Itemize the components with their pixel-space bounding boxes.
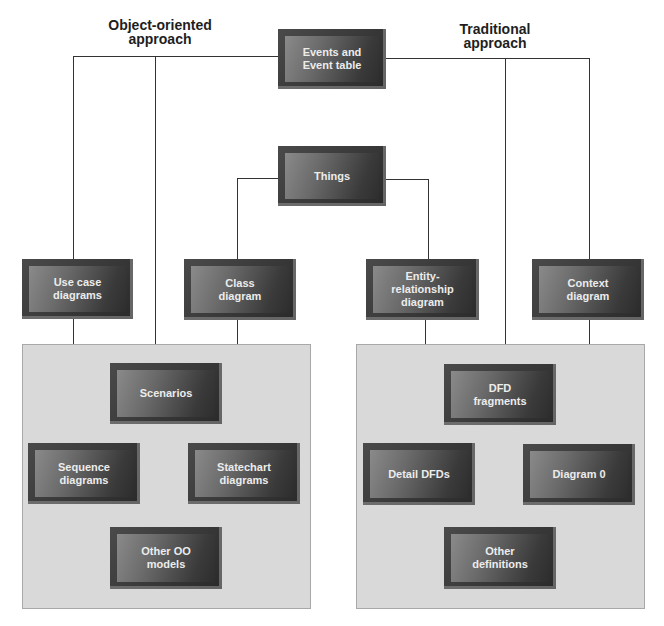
node-label: Other OO models: [117, 534, 215, 582]
node-diagram-0: Diagram 0: [523, 444, 635, 505]
node-label: Events and Event table: [285, 36, 379, 82]
heading-traditional: Traditional approach: [440, 22, 550, 50]
node-other-oo-models: Other OO models: [110, 527, 222, 589]
connector-class-to-panel: [237, 320, 238, 344]
node-other-definitions: Other definitions: [444, 527, 556, 589]
node-label: Scenarios: [117, 370, 215, 417]
node-label: Use case diagrams: [29, 266, 126, 312]
node-label: Context diagram: [539, 266, 637, 313]
connector-context-to-panel: [589, 320, 590, 344]
node-sequence-diagrams: Sequence diagrams: [28, 443, 140, 504]
connector-oo-panel-vertical: [155, 56, 156, 344]
connector-context-vertical: [589, 58, 590, 259]
node-entity-relationship-diagram: Entity- relationship diagram: [366, 259, 479, 320]
node-things: Things: [278, 146, 386, 206]
node-scenarios: Scenarios: [110, 363, 222, 424]
node-statechart-diagrams: Statechart diagrams: [188, 443, 300, 504]
node-context-diagram: Context diagram: [532, 259, 644, 320]
connector-things-left-horizontal: [237, 178, 278, 179]
node-label: DFD fragments: [451, 371, 549, 418]
node-label: Entity- relationship diagram: [373, 266, 472, 313]
node-dfd-fragments: DFD fragments: [444, 364, 556, 425]
connector-trad-panel-vertical: [505, 58, 506, 344]
node-events-and-event-table: Events and Event table: [278, 29, 386, 89]
node-label: Other definitions: [451, 534, 549, 582]
node-label: Sequence diagrams: [35, 450, 133, 497]
heading-object-oriented: Object-oriented approach: [95, 18, 225, 46]
node-use-case-diagrams: Use case diagrams: [22, 259, 133, 319]
node-label: Things: [285, 153, 379, 199]
connector-top-horizontal-left: [73, 56, 278, 57]
connector-things-left-vertical: [237, 178, 238, 259]
connector-top-horizontal-right: [386, 58, 589, 59]
node-label: Detail DFDs: [370, 450, 468, 498]
connector-things-right-vertical: [428, 179, 429, 259]
node-label: Diagram 0: [530, 451, 628, 498]
connector-erd-to-panel: [425, 320, 426, 344]
node-class-diagram: Class diagram: [184, 259, 296, 320]
connector-usecase-to-panel: [73, 319, 74, 344]
node-label: Class diagram: [191, 266, 289, 313]
connector-usecase-vertical: [73, 56, 74, 259]
connector-things-right-horizontal: [386, 179, 429, 180]
node-detail-dfds: Detail DFDs: [363, 443, 475, 505]
node-label: Statechart diagrams: [195, 450, 293, 497]
